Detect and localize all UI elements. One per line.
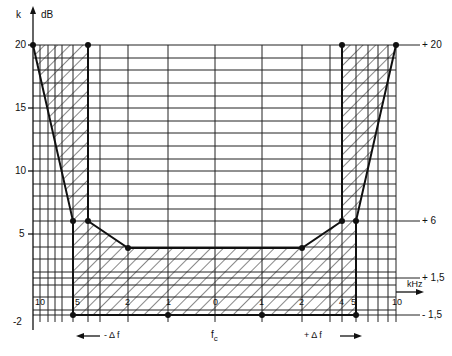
- khz-arrow-icon: [396, 289, 424, 295]
- x-tick-1-right: 1: [259, 298, 264, 307]
- y-axis-letter: k: [16, 10, 21, 20]
- y-tick-minus-2: -2: [13, 317, 22, 327]
- y-axis-unit: dB: [41, 10, 53, 20]
- tolerance-mask-diagram: [0, 0, 452, 356]
- right-marker-minus-1-5: - 1,5: [422, 310, 442, 320]
- x-tick-5-right: 5: [351, 298, 356, 307]
- plus-delta-f-label: + Δ f: [304, 331, 322, 340]
- y-axis-arrow-icon: [30, 6, 36, 14]
- right-marker-plus-20: + 20: [422, 40, 442, 50]
- right-reference-lines: [396, 45, 420, 315]
- y-tick-20: 20: [15, 40, 26, 50]
- y-tick-5: 5: [19, 229, 25, 239]
- minus-df-arrow-icon: [76, 333, 100, 339]
- y-tick-15: 15: [15, 103, 26, 113]
- minus-delta-f-label: - Δ f: [104, 331, 120, 340]
- plus-df-arrow-icon: [340, 333, 362, 339]
- x-tick-10-right: 10: [392, 298, 402, 307]
- x-tick-1-left: 1: [166, 298, 171, 307]
- carrier-frequency-label: fc: [211, 330, 218, 343]
- right-marker-plus-6: + 6: [422, 216, 436, 226]
- x-tick-2-right: 2: [299, 298, 304, 307]
- x-tick-0: 0: [213, 298, 218, 307]
- x-tick-4-right: 4: [339, 298, 344, 307]
- right-marker-plus-1-5: + 1,5: [422, 273, 445, 283]
- x-unit-khz: kHz: [407, 280, 423, 289]
- x-tick-10-left: 10: [35, 298, 45, 307]
- x-tick-2-left: 2: [125, 298, 130, 307]
- y-tick-10: 10: [15, 166, 26, 176]
- x-tick-5-left: 5: [75, 298, 80, 307]
